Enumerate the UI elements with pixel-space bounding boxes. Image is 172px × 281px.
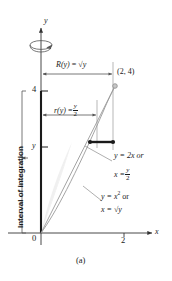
inner-radius-fraction: y2 — [73, 103, 79, 119]
linear-equation-line2-lhs: x = — [114, 170, 125, 179]
leader-line-parabola — [83, 186, 102, 201]
figure-canvas — [0, 0, 172, 281]
inner-radius-name: r(y) — [54, 106, 66, 115]
outer-radius-label: R(y) = √y — [56, 61, 86, 69]
parabola-equation-or: or — [122, 192, 129, 201]
representative-slice — [88, 140, 115, 144]
x-tick-label-2: 2 — [121, 236, 125, 245]
point-label-2-4: (2, 4) — [117, 68, 134, 76]
y-axis-label: y — [44, 17, 48, 25]
x-axis-label: x — [155, 228, 159, 236]
outer-radius-equals: = — [72, 60, 77, 69]
inner-radius-denominator: 2 — [73, 111, 79, 118]
parabola-equation-line1-lhs: y = x — [101, 192, 118, 201]
parabola-equation-label: y = x2 or x = √y — [101, 193, 129, 214]
parabola-exponent: 2 — [118, 190, 121, 196]
origin-label: 0 — [32, 234, 36, 243]
outer-radius-expression: √y — [78, 60, 86, 69]
figure-caption: (a) — [76, 256, 85, 265]
linear-equation-line1: y = 2x or — [114, 152, 144, 160]
leader-line-linear — [85, 146, 112, 161]
y-tick-label-4: 4 — [32, 85, 36, 94]
linear-equation-denominator: 2 — [125, 175, 131, 182]
linear-equation-fraction: y2 — [125, 167, 131, 183]
figure-volume-of-revolution: y x 0 2 4 y (2, 4) R(y) = √y r(y) =y2 y … — [0, 0, 172, 281]
parabola-equation-line2: x = √y — [101, 206, 129, 214]
outer-radius-name: R(y) — [56, 60, 70, 69]
inner-radius-label: r(y) =y2 — [54, 103, 78, 119]
y-tick-label-y: y — [32, 142, 36, 150]
interval-of-integration-label: Interval of integration — [16, 146, 25, 228]
linear-equation-label: y = 2x or x =y2 — [114, 152, 144, 183]
x-axis — [8, 233, 152, 237]
point-2-4-marker — [113, 84, 118, 89]
